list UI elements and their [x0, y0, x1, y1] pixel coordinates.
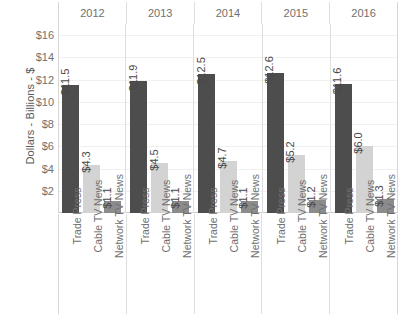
bar-value-label: $4.5	[148, 149, 160, 170]
category-slot: Cable TV News	[84, 214, 101, 314]
y-tick-label: $10	[36, 96, 54, 108]
category-slot: Trade Press	[334, 214, 351, 314]
bar-value-label: $4.7	[216, 147, 228, 168]
category-slot: Trade Press	[63, 214, 80, 314]
year-label-2016: 2016	[330, 2, 397, 24]
bar-value-label: $11.5	[59, 69, 71, 96]
category-slot: Network TV News	[105, 214, 122, 314]
category-slot: Cable TV News	[355, 214, 372, 314]
category-label: Network TV News	[113, 174, 125, 258]
bar-slot: $11.6	[335, 24, 352, 213]
y-tick-label: $14	[36, 51, 54, 63]
bar-value-label: $11.6	[331, 68, 343, 95]
category-label: Cable TV News	[296, 180, 308, 253]
category-label: Trade Press	[71, 188, 83, 245]
bar-value-label: $4.3	[80, 151, 92, 172]
category-label: Cable TV News	[364, 180, 376, 253]
category-group-2016: Trade PressCable TV NewsNetwork TV News	[330, 214, 397, 314]
bar-slot: $12.6	[267, 24, 284, 213]
bar-value-label: $12.6	[263, 56, 275, 84]
bar-value-label: $11.9	[127, 64, 139, 91]
category-slot: Network TV News	[376, 214, 393, 314]
y-tick-label: $12	[36, 74, 54, 86]
year-label-2012: 2012	[59, 2, 127, 24]
category-group-2014: Trade PressCable TV NewsNetwork TV News	[195, 214, 263, 314]
y-tick-label: $16	[36, 29, 54, 41]
category-slot: Cable TV News	[152, 214, 169, 314]
bar-slot: $12.5	[198, 24, 215, 213]
year-label-2014: 2014	[195, 2, 263, 24]
category-slot: Trade Press	[266, 214, 283, 314]
bar-value-label: $6.0	[352, 133, 364, 154]
category-label: Trade Press	[343, 188, 355, 245]
category-label: Trade Press	[275, 188, 287, 245]
bar-chart: Dollars - Billions - $ $2$4$6$8$10$12$14…	[0, 0, 418, 327]
bar-slot: $11.5	[62, 24, 79, 213]
category-label: Network TV News	[249, 174, 261, 258]
category-slot: Cable TV News	[287, 214, 304, 314]
category-label: Trade Press	[139, 188, 151, 245]
bar-value-label: $5.2	[284, 141, 296, 162]
category-label-band: Trade PressCable TV NewsNetwork TV NewsT…	[58, 214, 398, 314]
year-label-2013: 2013	[127, 2, 195, 24]
bar-slot: $11.9	[130, 24, 147, 213]
category-slot: Trade Press	[199, 214, 216, 314]
category-slot: Network TV News	[240, 214, 257, 314]
y-tick-label: $2	[42, 185, 54, 197]
category-label: Network TV News	[385, 174, 397, 258]
y-tick-label: $4	[42, 163, 54, 175]
category-group-2013: Trade PressCable TV NewsNetwork TV News	[127, 214, 195, 314]
y-axis-tick-labels: $2$4$6$8$10$12$14$16	[16, 24, 54, 213]
category-group-2015: Trade PressCable TV NewsNetwork TV News	[262, 214, 330, 314]
y-tick-label: $8	[42, 118, 54, 130]
category-slot: Cable TV News	[219, 214, 236, 314]
category-label: Cable TV News	[160, 180, 172, 253]
year-label-2015: 2015	[262, 2, 330, 24]
category-slot: Network TV News	[308, 214, 325, 314]
category-label: Network TV News	[181, 174, 193, 258]
category-group-2012: Trade PressCable TV NewsNetwork TV News	[59, 214, 127, 314]
category-label: Trade Press	[207, 188, 219, 245]
year-header-band: 20122013201420152016	[58, 2, 398, 24]
category-slot: Trade Press	[131, 214, 148, 314]
category-label: Network TV News	[317, 174, 329, 258]
y-tick-label: $6	[42, 140, 54, 152]
category-slot: Network TV News	[173, 214, 190, 314]
category-label: Cable TV News	[92, 180, 104, 253]
category-label: Cable TV News	[228, 180, 240, 253]
bar-value-label: $12.5	[195, 57, 207, 85]
